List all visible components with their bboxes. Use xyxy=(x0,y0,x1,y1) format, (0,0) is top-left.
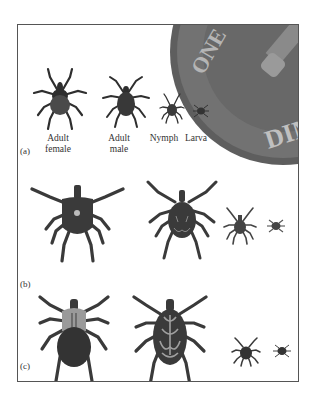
tick-nymph-a xyxy=(159,93,185,125)
tick-larva-c xyxy=(273,343,291,359)
tick-adult-female-c xyxy=(36,295,112,382)
figure-frame: ONE DIME xyxy=(17,24,299,382)
tick-adult-female-b xyxy=(30,185,125,263)
label-line: Adult xyxy=(38,133,78,144)
panel-label-c: (c) xyxy=(20,361,30,371)
tick-larva-b xyxy=(267,218,285,234)
label-adult-male: Adult male xyxy=(99,133,139,155)
label-line: male xyxy=(99,144,139,155)
tick-nymph-b xyxy=(223,207,257,245)
panel-label-a: (a) xyxy=(20,146,30,156)
tick-larva-a xyxy=(193,103,209,119)
tick-adult-male-a xyxy=(101,73,151,129)
panel-label-b: (b) xyxy=(20,279,31,289)
label-line: female xyxy=(38,144,78,155)
tick-adult-male-c xyxy=(130,295,210,382)
label-adult-female: Adult female xyxy=(38,133,78,155)
label-line: Adult xyxy=(99,133,139,144)
label-larva: Larva xyxy=(176,133,216,144)
tick-nymph-c xyxy=(231,337,261,367)
tick-adult-male-b xyxy=(142,180,222,262)
tick-adult-female-a xyxy=(32,67,88,131)
dime-coin-image: ONE DIME xyxy=(168,24,299,167)
